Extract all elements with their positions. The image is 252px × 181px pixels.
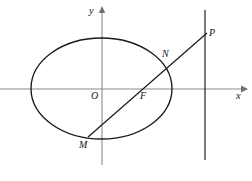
y-axis-arrowhead bbox=[99, 6, 105, 13]
point-label-focus: F bbox=[140, 91, 146, 101]
point-label-m: M bbox=[79, 140, 87, 150]
point-label-origin: O bbox=[91, 91, 98, 101]
point-label-n: N bbox=[162, 49, 169, 59]
y-axis-label: y bbox=[89, 6, 94, 17]
x-axis-label: x bbox=[236, 91, 241, 102]
geometry-figure: y x O F N M P bbox=[0, 0, 252, 181]
x-axis-arrowhead bbox=[241, 86, 248, 93]
secant-line-mp bbox=[88, 33, 207, 137]
point-label-p: P bbox=[209, 28, 215, 38]
